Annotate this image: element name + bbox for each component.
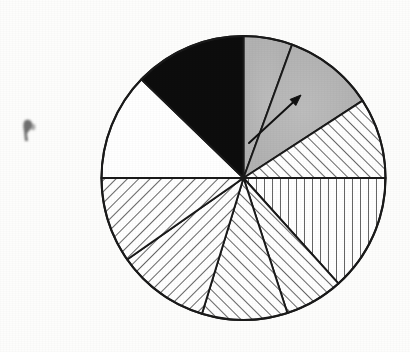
scan-smudge-dot <box>31 124 36 130</box>
pie-chart-svg <box>0 0 410 352</box>
scan-smudge-shape <box>23 120 32 141</box>
pie-sector-group <box>102 36 386 320</box>
figure-root <box>0 0 410 352</box>
scan-smudge <box>23 120 35 141</box>
